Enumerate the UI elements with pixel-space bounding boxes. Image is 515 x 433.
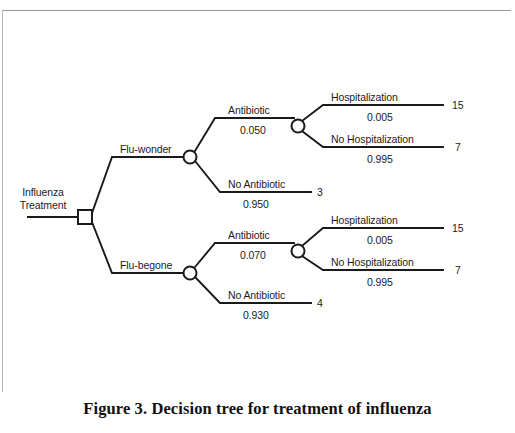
branch-label-no-antibiotic-upper: No Antibiotic (228, 178, 285, 190)
probability-antibiotic-upper: 0.050 (240, 124, 266, 136)
payoff-hospitalization-lower: 15 (452, 222, 463, 234)
probability-no-antibiotic-upper: 0.950 (243, 198, 269, 210)
probability-no-antibiotic-lower: 0.930 (243, 309, 269, 321)
root-label: Influenza Treatment (12, 186, 74, 211)
branch-label-no-hospitalization-upper: No Hospitalization (331, 133, 414, 145)
figure-decision-tree: Influenza Treatment Flu-wonder Antibioti… (0, 0, 515, 433)
branch-label-antibiotic-upper: Antibiotic (228, 104, 270, 116)
branch-label-hospitalization-upper: Hospitalization (331, 91, 398, 103)
payoff-no-hospitalization-upper: 7 (455, 141, 461, 153)
root-label-line1: Influenza (22, 186, 64, 198)
probability-hospitalization-upper: 0.005 (367, 111, 393, 123)
decision-node-square[interactable] (78, 210, 92, 224)
branch-label-flu-wonder: Flu-wonder (120, 143, 172, 155)
payoff-no-antibiotic-upper: 3 (317, 186, 323, 198)
root-label-line2: Treatment (20, 199, 67, 211)
payoff-hospitalization-upper: 15 (452, 99, 463, 111)
probability-antibiotic-lower: 0.070 (240, 249, 266, 261)
branch-label-no-hospitalization-lower: No Hospitalization (331, 256, 414, 268)
probability-no-hospitalization-lower: 0.995 (367, 276, 393, 288)
payoff-no-hospitalization-lower: 7 (455, 264, 461, 276)
branch-label-no-antibiotic-lower: No Antibiotic (228, 289, 285, 301)
probability-no-hospitalization-upper: 0.995 (367, 153, 393, 165)
probability-hospitalization-lower: 0.005 (367, 234, 393, 246)
chance-node-flu-wonder[interactable] (184, 151, 197, 164)
edge-root-to-flu-wonder (92, 157, 186, 213)
branch-label-antibiotic-lower: Antibiotic (228, 229, 270, 241)
figure-caption: Figure 3. Decision tree for treatment of… (0, 399, 515, 419)
branch-label-hospitalization-lower: Hospitalization (331, 214, 398, 226)
branch-label-flu-begone: Flu-begone (120, 259, 172, 271)
chance-node-antibiotic-upper[interactable] (292, 120, 305, 133)
payoff-no-antibiotic-lower: 4 (317, 297, 323, 309)
chance-node-antibiotic-lower[interactable] (292, 245, 305, 258)
chance-node-flu-begone[interactable] (184, 267, 197, 280)
